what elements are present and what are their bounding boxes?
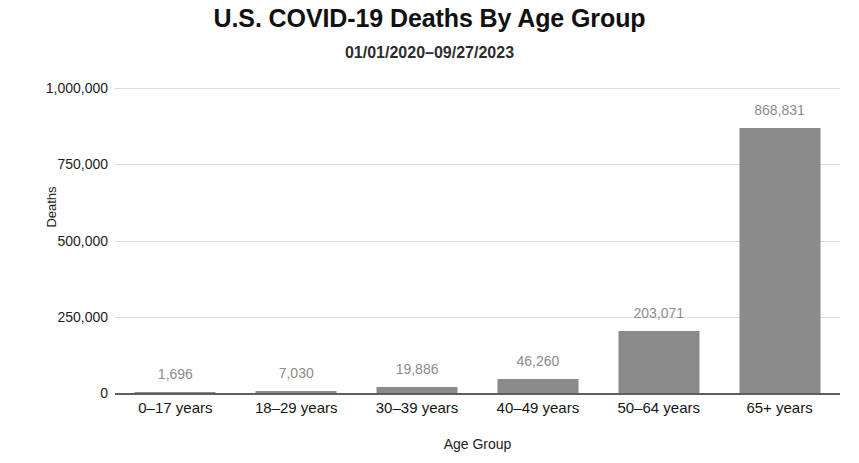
bar-value-label: 1,696 [158,366,193,382]
bar-group: 1,696 [115,88,236,393]
bar-group: 203,071 [598,88,719,393]
bar-series: 1,6967,03019,88646,260203,071868,831 [115,88,840,393]
bar-group: 868,831 [719,88,840,393]
bar-value-label: 7,030 [279,365,314,381]
x-axis-line [115,393,840,395]
bar-value-label: 868,831 [754,102,805,118]
x-axis-tick-label: 0–17 years [115,399,236,416]
y-axis-tick-label: 250,000 [3,309,108,325]
bar[interactable] [497,379,578,393]
x-axis-tick-labels: 0–17 years18–29 years30–39 years40–49 ye… [115,399,840,423]
x-axis-tick-label: 65+ years [719,399,840,416]
x-axis-tick-label: 30–39 years [357,399,478,416]
x-axis-tick-label: 40–49 years [478,399,599,416]
bar-group: 19,886 [357,88,478,393]
chart-title: U.S. COVID-19 Deaths By Age Group [0,4,859,33]
bar-group: 7,030 [236,88,357,393]
bar[interactable] [618,331,699,393]
y-axis-tick-label: 0 [3,385,108,401]
chart-subtitle: 01/01/2020–09/27/2023 [0,44,859,62]
bar-value-label: 19,886 [396,361,439,377]
bar-value-label: 46,260 [516,353,559,369]
bar[interactable] [739,128,820,393]
y-axis-tick-label: 500,000 [3,233,108,249]
bar-group: 46,260 [478,88,599,393]
y-axis-tick-label: 1,000,000 [3,80,108,96]
y-axis-tick-label: 750,000 [3,156,108,172]
bar-chart: U.S. COVID-19 Deaths By Age Group 01/01/… [0,0,859,463]
x-axis-tick-label: 18–29 years [236,399,357,416]
bar-value-label: 203,071 [633,305,684,321]
y-axis-tick-labels: 0250,000500,000750,0001,000,000 [0,88,108,393]
x-axis-title: Age Group [115,436,840,452]
x-axis-tick-label: 50–64 years [598,399,719,416]
